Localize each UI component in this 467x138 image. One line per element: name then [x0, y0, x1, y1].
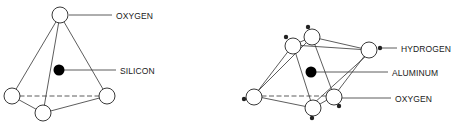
hydrogen-atom	[310, 116, 314, 120]
oxygen-atom	[361, 42, 377, 58]
edge	[60, 15, 107, 96]
aluminum-atom	[306, 67, 317, 78]
oxygen-atom	[285, 38, 301, 54]
hydrogen-atom	[306, 25, 310, 29]
edge	[312, 37, 334, 96]
oxygen-atom	[35, 105, 51, 121]
hydrogen-atom	[337, 104, 341, 108]
edge	[254, 45, 293, 96]
edge	[257, 37, 312, 92]
label-aluminum: ALUMINUM	[392, 68, 438, 78]
silica-tetrahedron: OXYGEN SILICON	[4, 7, 155, 121]
label-hydrogen: HYDROGEN	[401, 44, 451, 54]
hydrogen-atom	[242, 97, 246, 101]
oxygen-atom	[326, 89, 342, 105]
silicon-atom	[54, 65, 65, 76]
hydrogen-atom	[284, 35, 288, 39]
hydrogen-atom	[378, 46, 382, 50]
edge	[334, 50, 369, 96]
oxygen-atom	[304, 29, 320, 45]
label-oxygen: OXYGEN	[116, 11, 153, 21]
oxygen-atom-top	[52, 7, 68, 23]
mineral-structure-diagram: OXYGEN SILICON	[0, 0, 467, 138]
alumina-octahedron: HYDROGEN ALUMINUM OXYGEN	[242, 25, 451, 120]
edge	[43, 96, 107, 113]
label-silicon: SILICON	[120, 66, 155, 76]
oxygen-atom	[305, 100, 321, 116]
oxygen-atom	[4, 88, 20, 104]
label-oxygen: OXYGEN	[395, 94, 432, 104]
edge	[254, 96, 313, 108]
oxygen-atom	[99, 88, 115, 104]
oxygen-atom	[246, 89, 262, 105]
